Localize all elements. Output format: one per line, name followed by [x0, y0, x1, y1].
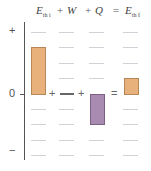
- bar-operator-plus-1: +: [49, 87, 55, 99]
- gridline: [89, 32, 104, 33]
- operator-plus-2: +: [85, 4, 91, 16]
- gridline: [59, 140, 74, 141]
- term-symbol: Q: [95, 4, 103, 16]
- term-symbol: E: [125, 4, 132, 16]
- gridline: [123, 47, 138, 48]
- gridline: [31, 124, 46, 125]
- bar-work-zero: [60, 93, 74, 95]
- bar-heat: [90, 94, 105, 125]
- zero-tick: [20, 94, 24, 95]
- gridline: [123, 124, 138, 125]
- gridline: [123, 155, 138, 156]
- bar-eth-final: [124, 78, 139, 95]
- term-eth-initial: Eth i: [36, 4, 51, 18]
- gridline: [89, 155, 104, 156]
- gridline: [59, 78, 74, 79]
- gridline: [59, 63, 74, 64]
- gridline: [59, 124, 74, 125]
- gridline: [59, 155, 74, 156]
- y-label-minus: −: [9, 144, 15, 156]
- operator-equals: =: [113, 4, 119, 16]
- gridline: [31, 32, 46, 33]
- term-eth-final: Eth f: [125, 4, 140, 18]
- gridline: [123, 32, 138, 33]
- term-subscript: th i: [43, 12, 51, 18]
- term-symbol: W: [67, 4, 76, 16]
- bar-operator-equals: =: [111, 87, 117, 99]
- gridline: [89, 63, 104, 64]
- y-label-zero: 0: [9, 87, 15, 99]
- gridline: [31, 155, 46, 156]
- term-symbol: E: [36, 4, 43, 16]
- gridline: [123, 140, 138, 141]
- y-axis: [24, 22, 25, 160]
- gridline: [123, 109, 138, 110]
- y-label-plus: +: [9, 24, 15, 36]
- term-heat: Q: [95, 4, 103, 16]
- operator-plus-1: +: [57, 4, 63, 16]
- gridline: [89, 140, 104, 141]
- term-subscript: th f: [132, 12, 140, 18]
- gridline: [59, 109, 74, 110]
- bar-operator-plus-2: +: [78, 87, 84, 99]
- term-work: W: [67, 4, 76, 16]
- gridline: [59, 47, 74, 48]
- gridline: [31, 109, 46, 110]
- gridline: [89, 78, 104, 79]
- bar-eth-initial: [31, 47, 46, 95]
- gridline: [31, 140, 46, 141]
- gridline: [59, 32, 74, 33]
- gridline: [123, 63, 138, 64]
- gridline: [89, 47, 104, 48]
